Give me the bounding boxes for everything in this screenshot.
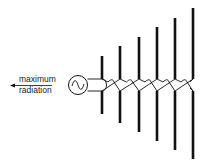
feed-line	[88, 79, 107, 91]
radiation-label: maximum radiation	[10, 74, 56, 95]
dipole-elements	[102, 8, 193, 159]
label-radiation: radiation	[19, 85, 52, 95]
log-periodic-antenna-diagram: maximum radiation	[0, 0, 206, 165]
label-maximum: maximum	[19, 74, 56, 84]
crossed-transmission-line	[102, 79, 193, 91]
ac-source-icon	[69, 76, 88, 95]
